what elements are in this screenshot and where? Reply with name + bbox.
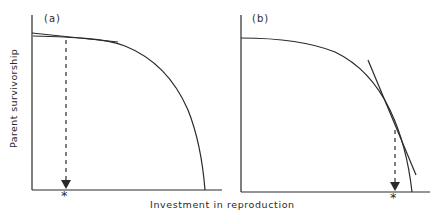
panel-a-tradeoff-curve [33,36,205,190]
panel-b [241,15,430,192]
panel-b-tradeoff-curve [241,38,412,192]
panel-a [32,15,222,190]
panel-a-tangent-line [32,33,118,42]
x-axis-label: Investment in reproduction [150,199,295,210]
panel-a-label: (a) [44,13,61,24]
panel-b-optimum-asterisk-icon: * [390,190,397,205]
panel-b-tangent-line [368,60,416,175]
tradeoff-diagram [0,0,447,218]
panel-a-optimum-asterisk-icon: * [61,188,68,203]
y-axis-label: Parent survivorship [8,49,19,148]
panel-b-label: (b) [252,13,269,24]
